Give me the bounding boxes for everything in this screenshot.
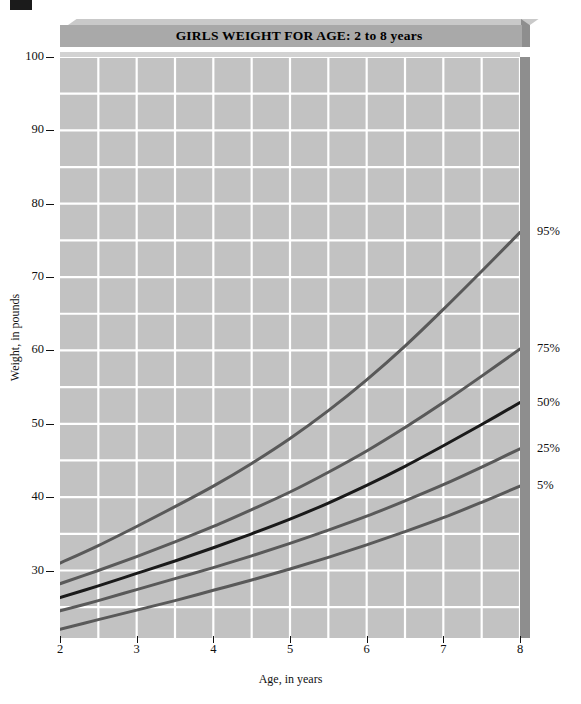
percentile-label-50pct: 50% [537,395,560,410]
percentile-label-25pct: 25% [537,441,560,456]
percentile-label-95pct: 95% [537,224,560,239]
percentile-labels: 95%75%50%25%5% [0,0,581,704]
percentile-label-75pct: 75% [537,341,560,356]
percentile-label-5pct: 5% [537,478,554,493]
growth-chart-page: GIRLS WEIGHT FOR AGE: 2 to 8 years 30405… [0,0,581,704]
